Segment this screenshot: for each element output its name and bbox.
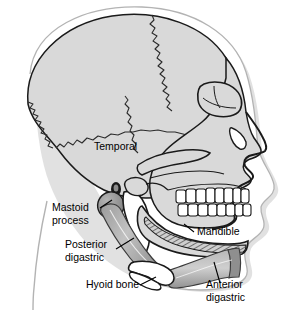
teeth-upper-row xyxy=(176,188,249,203)
teeth-lower-row xyxy=(178,204,251,216)
label-mastoid-process: Mastoid process xyxy=(52,201,92,226)
label-mandible: Mandible xyxy=(197,225,240,237)
condyle xyxy=(125,178,148,196)
teeth xyxy=(176,188,251,216)
anatomy-figure: Temporal Mastoid process Posterior digas… xyxy=(0,0,289,310)
label-hyoid-bone: Hyoid bone xyxy=(86,278,139,290)
label-temporal: Temporal xyxy=(94,140,137,152)
label-posterior-digastric: Posterior digastric xyxy=(65,238,110,263)
label-anterior-digastric: Anterior digastric xyxy=(206,278,246,303)
